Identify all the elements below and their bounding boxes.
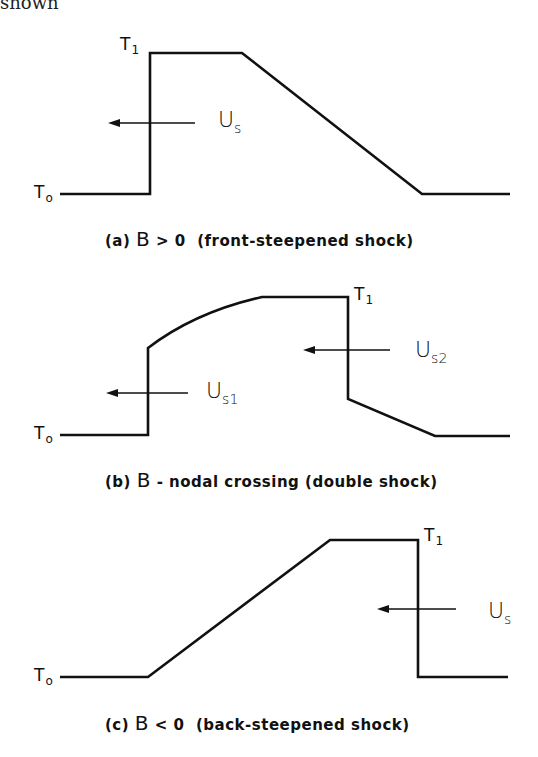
panel-a-profile (60, 53, 510, 194)
velocity-label-us2: Us2 (415, 339, 447, 365)
label-t0-c: To (34, 667, 53, 687)
panel-c-profile (60, 540, 508, 677)
label-t1-c: T1 (424, 527, 443, 547)
velocity-label-us-a: Us (218, 109, 241, 135)
caption-a: (a) B > 0 (front-steepened shock) (105, 229, 414, 249)
temperature-profile-b (60, 297, 510, 436)
label-t1-a: T1 (120, 36, 139, 56)
arrow-left-icon (106, 389, 118, 397)
panel-b-profile (60, 297, 510, 436)
label-t0-a: To (34, 184, 53, 204)
velocity-label-us-c: Us (488, 600, 511, 626)
shock-profiles-diagram (0, 0, 538, 757)
label-t1-b: T1 (354, 286, 373, 306)
label-t0-b: To (34, 425, 53, 445)
caption-b: (b) B - nodal crossing (double shock) (105, 470, 438, 490)
velocity-label-us1: Us1 (206, 380, 238, 406)
arrow-left-icon (303, 346, 315, 354)
arrow-left-icon (377, 605, 389, 613)
caption-c: (c) B < 0 (back-steepened shock) (105, 713, 410, 733)
arrow-left-icon (108, 119, 120, 127)
